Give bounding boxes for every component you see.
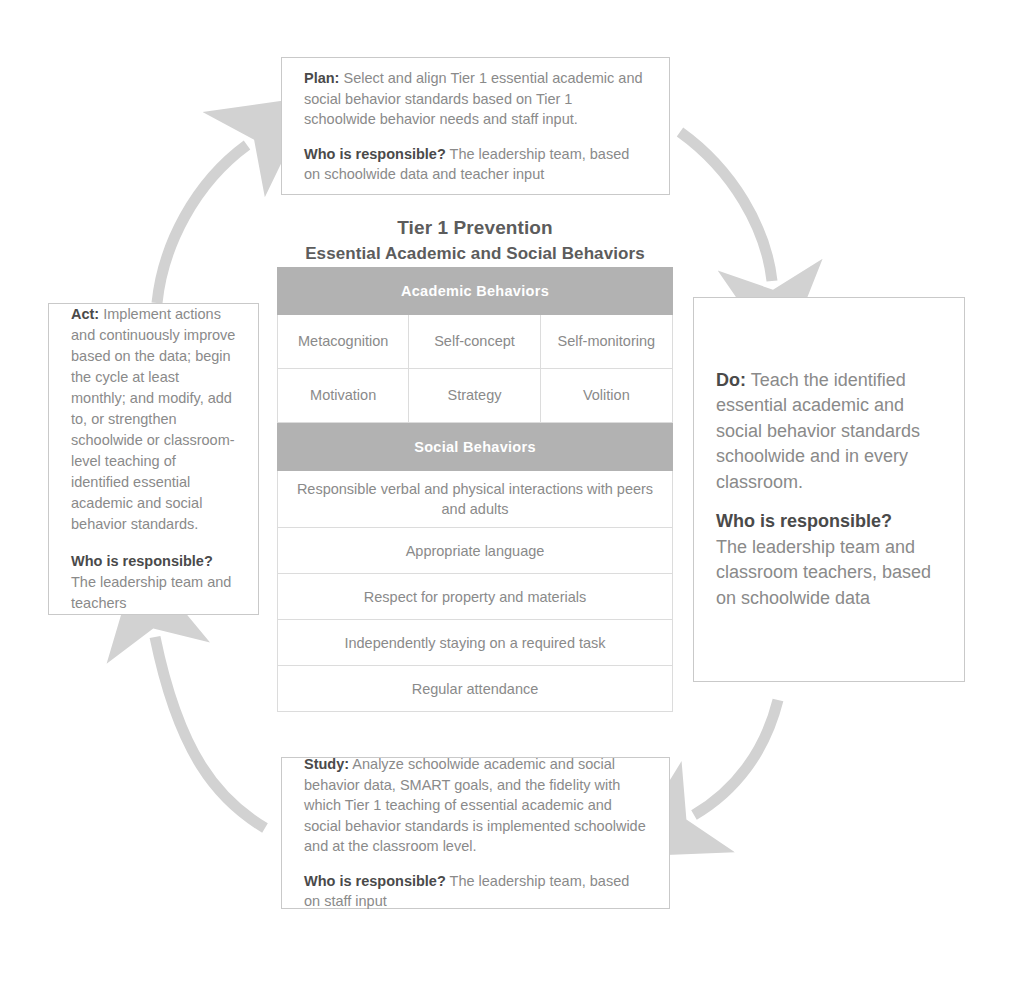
academic-cell: Metacognition xyxy=(278,315,409,368)
list-item: Appropriate language xyxy=(277,528,673,574)
study-responsibility: Who is responsible? The leadership team,… xyxy=(304,871,647,912)
study-box: Study: Analyze schoolwide academic and s… xyxy=(281,757,670,909)
table-row: Metacognition Self-concept Self-monitori… xyxy=(277,315,673,369)
arrow-do-to-study xyxy=(694,700,778,815)
plan-box: Plan: Select and align Tier 1 essential … xyxy=(281,57,670,195)
study-who-label: Who is responsible? xyxy=(304,873,446,889)
page-edge-text-remnant-top xyxy=(196,0,896,2)
academic-cell: Self-monitoring xyxy=(541,315,672,368)
plan-body: Select and align Tier 1 essential academ… xyxy=(304,70,643,127)
plan-label: Plan: xyxy=(304,70,339,86)
list-item: Responsible verbal and physical interact… xyxy=(277,471,673,528)
social-behaviors-header: Social Behaviors xyxy=(277,423,673,471)
act-responsibility: Who is responsible?The leadership team a… xyxy=(71,551,236,614)
do-body: Teach the identified essential academic … xyxy=(716,370,920,492)
diagram-title-line2: Essential Academic and Social Behaviors xyxy=(277,242,673,266)
academic-cell: Motivation xyxy=(278,369,409,422)
academic-behaviors-header: Academic Behaviors xyxy=(277,267,673,315)
do-who-body: The leadership team and classroom teache… xyxy=(716,537,931,608)
do-responsibility: Who is responsible?The leadership team a… xyxy=(716,509,942,611)
page-edge-text-remnant-bottom xyxy=(10,959,430,971)
do-label: Do: xyxy=(716,370,746,390)
do-who-label: Who is responsible? xyxy=(716,511,892,531)
study-label: Study: xyxy=(304,756,349,772)
act-body: Implement actions and continuously impro… xyxy=(71,306,235,532)
plan-statement: Plan: Select and align Tier 1 essential … xyxy=(304,68,647,130)
pdsa-cycle-diagram: Plan: Select and align Tier 1 essential … xyxy=(0,0,1015,984)
diagram-title: Tier 1 Prevention Essential Academic and… xyxy=(277,216,673,266)
plan-who-label: Who is responsible? xyxy=(304,145,446,161)
act-label: Act: xyxy=(71,306,99,322)
diagram-title-line1: Tier 1 Prevention xyxy=(277,216,673,240)
arrow-study-to-act xyxy=(155,637,265,828)
academic-cell: Strategy xyxy=(409,369,540,422)
do-statement: Do: Teach the identified essential acade… xyxy=(716,368,942,496)
academic-cell: Self-concept xyxy=(409,315,540,368)
act-statement: Act: Implement actions and continuously … xyxy=(71,304,236,535)
list-item: Regular attendance xyxy=(277,666,673,712)
essential-behaviors-table: Academic Behaviors Metacognition Self-co… xyxy=(277,267,673,712)
list-item: Independently staying on a required task xyxy=(277,620,673,666)
do-box: Do: Teach the identified essential acade… xyxy=(693,297,965,682)
arrow-act-to-plan xyxy=(157,145,247,303)
table-row: Motivation Strategy Volition xyxy=(277,369,673,423)
act-box: Act: Implement actions and continuously … xyxy=(48,303,259,615)
academic-cell: Volition xyxy=(541,369,672,422)
study-body: Analyze schoolwide academic and social b… xyxy=(304,756,646,854)
list-item: Respect for property and materials xyxy=(277,574,673,620)
act-who-label: Who is responsible? xyxy=(71,553,213,569)
act-who-body: The leadership team and teachers xyxy=(71,574,231,611)
study-statement: Study: Analyze schoolwide academic and s… xyxy=(304,754,647,857)
arrow-plan-to-do xyxy=(680,132,772,281)
plan-responsibility: Who is responsible? The leadership team,… xyxy=(304,143,647,184)
